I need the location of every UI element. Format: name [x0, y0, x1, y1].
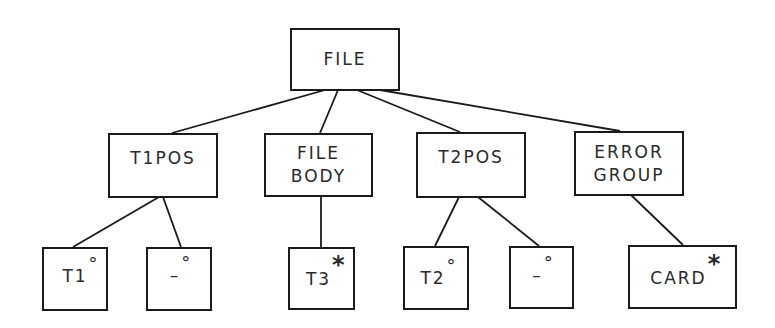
edge-error-group-card	[631, 195, 683, 245]
node-t2pos-null-label: –	[532, 265, 543, 285]
node-t1pos-null: –°	[146, 247, 212, 311]
edge-file-t1pos	[172, 90, 325, 133]
node-t1pos-label: T1POS	[130, 147, 196, 170]
degree-mark-icon: °	[447, 257, 456, 275]
node-t3: T3*	[288, 247, 355, 310]
edge-t1pos-t1	[73, 197, 159, 247]
node-error-group-label-line1: ERROR	[594, 141, 664, 164]
node-card: CARD*	[628, 245, 737, 309]
node-file-body-label-line1: FILE	[297, 142, 340, 165]
asterisk-mark-icon: *	[332, 256, 345, 274]
node-card-label: CARD	[650, 268, 706, 288]
degree-mark-icon: °	[89, 255, 98, 273]
degree-mark-icon: °	[181, 254, 190, 272]
node-file-body-label-line2: BODY	[291, 165, 346, 188]
node-file-label: FILE	[323, 48, 366, 71]
node-file-body: FILE BODY	[264, 133, 373, 197]
node-error-group-label-line2: GROUP	[593, 164, 664, 187]
node-t1: T1°	[42, 247, 108, 311]
edge-file-error-group	[380, 90, 620, 131]
node-t2: T2°	[403, 246, 469, 310]
node-t2pos-label: T2POS	[438, 146, 504, 169]
node-t3-label: T3	[306, 269, 331, 289]
edge-t2pos-t2	[435, 197, 459, 246]
node-t1pos: T1POS	[108, 133, 218, 198]
edge-t1pos-null	[163, 197, 181, 247]
node-t1pos-null-label: –	[170, 265, 181, 285]
node-file: FILE	[290, 28, 400, 91]
node-t2pos-null: –°	[509, 246, 574, 309]
asterisk-mark-icon: *	[708, 255, 721, 273]
node-t1-label: T1	[62, 266, 87, 286]
edge-file-file-body	[320, 90, 338, 133]
node-t2pos: T2POS	[416, 132, 526, 198]
node-t2-label: T2	[420, 268, 445, 288]
node-error-group: ERROR GROUP	[574, 131, 684, 196]
degree-mark-icon: °	[544, 254, 553, 272]
edge-file-t2pos	[357, 90, 460, 132]
edge-t2pos-null	[478, 197, 539, 246]
